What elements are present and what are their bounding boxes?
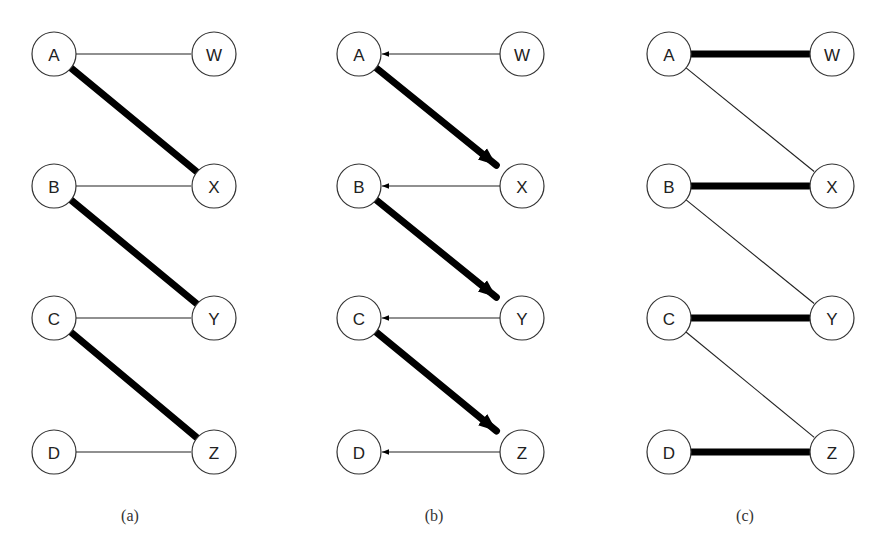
node-label: D (48, 444, 60, 463)
node-a: A (337, 32, 381, 76)
node-label: W (206, 46, 222, 65)
edge-b-y (71, 200, 196, 303)
node-label: Y (826, 310, 837, 329)
panel-caption: (c) (736, 507, 754, 525)
node-label: Z (517, 444, 527, 463)
node-b: B (32, 164, 76, 208)
edges (686, 54, 814, 452)
node-label: Y (208, 310, 219, 329)
node-y: Y (192, 296, 236, 340)
node-x: X (192, 164, 236, 208)
node-a: A (647, 32, 691, 76)
node-label: A (353, 46, 365, 65)
node-c: C (337, 296, 381, 340)
node-y: Y (500, 296, 544, 340)
node-label: D (663, 444, 675, 463)
node-w: W (810, 32, 854, 76)
node-label: C (353, 310, 365, 329)
node-label: B (663, 178, 674, 197)
node-label: A (48, 46, 60, 65)
node-label: B (353, 178, 364, 197)
node-y: Y (810, 296, 854, 340)
edges (376, 54, 500, 452)
node-label: W (514, 46, 530, 65)
edge-c-z (71, 332, 197, 437)
node-a: A (32, 32, 76, 76)
node-b: B (647, 164, 691, 208)
node-label: Y (516, 310, 527, 329)
bipartite-matching-figure: ABCDWXYZ(a)ABCDWXYZ(b)ABCDWXYZ(c) (0, 0, 880, 550)
node-w: W (500, 32, 544, 76)
node-label: A (663, 46, 675, 65)
panel-caption: (b) (425, 507, 444, 525)
node-z: Z (500, 430, 544, 474)
edge-b-y (376, 200, 496, 297)
node-z: Z (192, 430, 236, 474)
node-label: B (48, 178, 59, 197)
node-label: C (48, 310, 60, 329)
node-d: D (32, 430, 76, 474)
panel-caption: (a) (121, 507, 139, 525)
node-d: D (337, 430, 381, 474)
node-c: C (647, 296, 691, 340)
panel-a: ABCDWXYZ(a) (32, 32, 236, 525)
node-label: X (208, 178, 219, 197)
node-z: Z (810, 430, 854, 474)
node-w: W (192, 32, 236, 76)
node-label: Z (827, 444, 837, 463)
edge-b-y (686, 200, 814, 304)
edge-a-x (71, 68, 196, 171)
edge-a-x (686, 68, 814, 172)
node-d: D (647, 430, 691, 474)
node-label: X (516, 178, 527, 197)
node-label: Z (209, 444, 219, 463)
node-label: D (353, 444, 365, 463)
edge-a-x (376, 68, 496, 165)
panel-b: ABCDWXYZ(b) (337, 32, 544, 525)
edge-c-z (376, 332, 497, 431)
node-c: C (32, 296, 76, 340)
node-b: B (337, 164, 381, 208)
node-x: X (810, 164, 854, 208)
edge-c-z (686, 332, 814, 437)
node-x: X (500, 164, 544, 208)
panel-c: ABCDWXYZ(c) (647, 32, 854, 525)
node-label: X (826, 178, 837, 197)
edges (71, 54, 197, 452)
node-label: W (824, 46, 840, 65)
nodes: ABCDWXYZ (647, 32, 854, 474)
node-label: C (663, 310, 675, 329)
